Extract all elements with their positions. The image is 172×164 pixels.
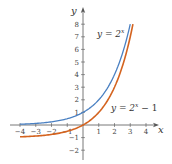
y-tick-label: 2 [75,96,79,104]
y-axis-label: y [70,5,77,16]
y-tick-label: 3 [75,84,79,92]
exponential-chart: −4−3−2−11234−2−112345678 y x y = 2x y = … [0,0,172,164]
x-tick-label: 4 [144,128,149,136]
y-tick-label: −1 [69,134,79,142]
x-tick-label: 2 [112,128,116,136]
x-axis-label: x [158,124,164,135]
y-tick-label: 7 [75,33,79,41]
curve-label-2x: y = 2x [96,27,125,39]
y-tick-label: 6 [75,46,80,54]
x-tick-label: −3 [31,128,41,136]
x-tick-label: 1 [97,128,101,136]
axes [10,7,159,160]
y-tick-label: 5 [75,59,79,67]
x-tick-label: 3 [128,128,132,136]
y-tick-label: −2 [69,147,79,155]
x-tick-label: −4 [15,128,26,136]
y-tick-label: 4 [75,71,80,79]
y-tick-label: 8 [75,21,79,29]
curve-label-2x-minus-1: y = 2x − 1 [110,101,157,113]
